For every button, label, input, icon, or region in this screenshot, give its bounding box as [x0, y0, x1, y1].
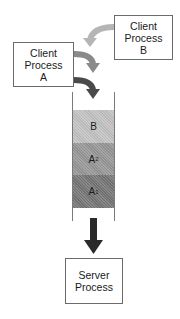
client-a-label-line3: A	[40, 71, 47, 83]
arrow-from-client-a-top	[74, 54, 100, 73]
client-process-a-box: Client Process A	[13, 42, 74, 87]
client-b-label-line2: Process	[125, 32, 163, 44]
queue-slot-label: B	[90, 121, 97, 132]
request-queue: B A2 A1	[72, 92, 115, 221]
client-b-label-line3: B	[140, 44, 147, 56]
client-a-label-line2: Process	[25, 59, 63, 71]
queue-slot-b: B	[73, 110, 114, 143]
client-process-b-box: Client Process B	[114, 15, 173, 60]
queue-slot-subscript: 1	[95, 189, 98, 195]
queue-slot-label: A	[88, 186, 95, 197]
queue-slot-label: A	[88, 154, 95, 165]
queue-slot-a2: A2	[73, 143, 114, 175]
server-process-box: Server Process	[65, 258, 123, 304]
arrow-to-server	[84, 218, 103, 254]
client-a-label-line1: Client	[30, 47, 57, 59]
client-b-label-line1: Client	[130, 20, 157, 32]
server-label-line2: Process	[75, 281, 113, 293]
arrow-from-client-b	[83, 27, 114, 47]
queue-slot-a1: A1	[73, 175, 114, 208]
queue-slot-subscript: 2	[95, 156, 98, 162]
server-label-line1: Server	[79, 269, 110, 281]
